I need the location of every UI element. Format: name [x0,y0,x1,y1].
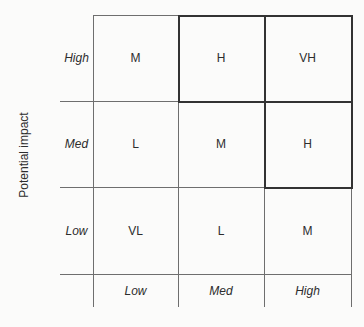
matrix-cell: L [178,187,264,274]
matrix-cell: M [178,101,264,187]
col-label-high: High [264,274,351,307]
col-label-low: Low [93,274,178,307]
row-label-med: Med [60,101,93,187]
matrix-cell: L [93,101,178,187]
matrix-cell: H [178,15,264,101]
col-label-med: Med [178,274,264,307]
matrix-cell: H [264,101,351,187]
matrix-cell: M [264,187,351,274]
matrix-cell: M [93,15,178,101]
row-label-low: Low [60,187,93,274]
matrix-cell: VH [264,15,351,101]
matrix-cell: VL [93,187,178,274]
y-axis-title: Potential impact [17,112,31,197]
row-label-high: High [60,15,93,101]
